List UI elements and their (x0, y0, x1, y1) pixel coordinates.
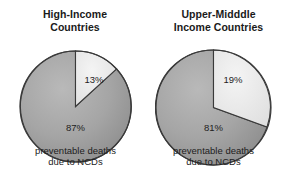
chart-panel-upper-middle-income: Upper-Midddle Income Countries (146, 0, 291, 184)
pie-chart-high-income: 13% 87% preventable deaths due to NCDs (19, 50, 132, 163)
chart-panel-high-income: High-Income Countries (0, 0, 150, 184)
pie-chart-figure: High-Income Countries (0, 0, 291, 184)
pie-svg-high-income (19, 50, 132, 163)
chart-title-upper-middle-income: Upper-Midddle Income Countries (146, 8, 291, 33)
chart-title-high-income: High-Income Countries (0, 8, 150, 33)
pie-svg-upper-middle-income (155, 49, 272, 166)
pie-chart-upper-middle-income: 19% 81% preventable deaths due to NCDs (155, 49, 272, 166)
